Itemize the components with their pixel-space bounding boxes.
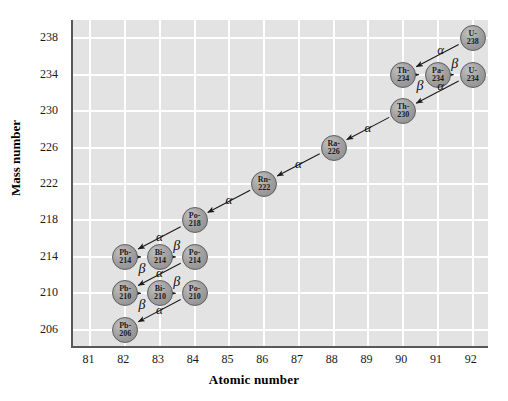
decay-arrows xyxy=(0,0,508,401)
beta-decay-label: β xyxy=(451,56,458,72)
nuclide-node: Rn-222 xyxy=(251,171,277,197)
nuclide-mass: 218 xyxy=(189,220,201,228)
alpha-decay-label: α xyxy=(156,229,163,245)
nuclide-node: Th-234 xyxy=(390,62,416,88)
nuclide-node: Pb-214 xyxy=(112,244,138,270)
nuclide-mass: 214 xyxy=(119,257,131,265)
nuclide-node: Po-214 xyxy=(182,244,208,270)
nuclide-mass: 210 xyxy=(154,293,166,301)
nuclide-mass: 230 xyxy=(397,111,409,119)
nuclide-node: Pb-206 xyxy=(112,317,138,343)
beta-decay-label: β xyxy=(173,274,180,290)
beta-decay-label: β xyxy=(139,261,146,277)
nuclide-mass: 238 xyxy=(467,38,479,46)
nuclide-mass: 222 xyxy=(258,184,270,192)
alpha-decay-label: α xyxy=(437,78,444,94)
nuclide-node: Ra-226 xyxy=(321,135,347,161)
nuclide-node: U-238 xyxy=(460,25,486,51)
nuclide-mass: 206 xyxy=(119,330,131,338)
nuclide-mass: 214 xyxy=(189,257,201,265)
beta-decay-label: β xyxy=(417,78,424,94)
beta-decay-label: β xyxy=(173,238,180,254)
alpha-decay-label: α xyxy=(225,192,232,208)
beta-decay-label: β xyxy=(139,297,146,313)
alpha-decay-label: α xyxy=(156,302,163,318)
alpha-decay-label: α xyxy=(364,120,371,136)
alpha-decay-label: α xyxy=(437,42,444,58)
nuclide-mass: 210 xyxy=(189,293,201,301)
alpha-decay-label: α xyxy=(156,265,163,281)
nuclide-mass: 226 xyxy=(328,148,340,156)
alpha-decay-label: α xyxy=(295,156,302,172)
nuclide-node: U-234 xyxy=(460,62,486,88)
nuclide-mass: 234 xyxy=(397,75,409,83)
nuclide-mass: 234 xyxy=(467,75,479,83)
nuclide-node: Po-210 xyxy=(182,280,208,306)
nuclide-mass: 214 xyxy=(154,257,166,265)
nuclide-node: Po-218 xyxy=(182,207,208,233)
decay-series-chart: U-238Th-234Pa-234U-234Th-230Ra-226Rn-222… xyxy=(0,0,508,401)
nuclide-mass: 210 xyxy=(119,293,131,301)
